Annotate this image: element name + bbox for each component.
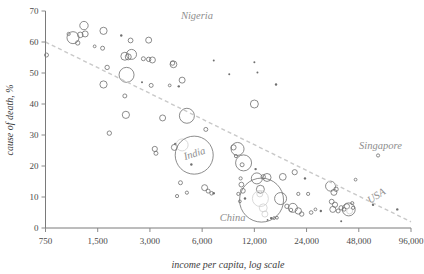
data-bubble [213, 60, 215, 62]
data-bubble [259, 204, 267, 212]
data-bubble [101, 46, 105, 50]
data-bubble [270, 217, 272, 219]
data-bubble [119, 67, 134, 82]
data-bubble [309, 211, 313, 215]
y-tick-label: 0 [34, 223, 39, 233]
data-bubble [154, 151, 158, 155]
annotation-singapore: Singapore [359, 140, 402, 151]
y-tick-label: 70 [30, 6, 40, 16]
data-bubble [123, 94, 127, 98]
data-bubble [340, 220, 342, 222]
y-tick-label: 60 [30, 37, 40, 47]
annotation-usa: USA [365, 186, 388, 206]
data-bubble [275, 83, 277, 85]
data-bubble [121, 52, 129, 60]
y-tick-label: 40 [30, 99, 40, 109]
annotation-india: India [181, 145, 206, 163]
y-tick-label: 20 [30, 161, 40, 171]
x-tick-label: 3,000 [140, 236, 161, 246]
x-tick-label: 1,500 [88, 236, 109, 246]
data-bubble [239, 182, 244, 187]
x-tick-label: 12,000 [242, 236, 267, 246]
bubble-series [45, 21, 399, 222]
data-bubble [275, 193, 287, 205]
data-bubble [237, 192, 240, 195]
data-bubble [267, 219, 269, 221]
data-bubble [120, 34, 122, 36]
plot-area [45, 21, 412, 222]
data-bubble [178, 85, 180, 87]
x-tick-label: 48,000 [346, 236, 371, 246]
data-bubble [279, 173, 286, 180]
data-bubble [262, 211, 268, 217]
trendline [46, 42, 412, 222]
x-tick-label: 750 [39, 236, 53, 246]
data-bubble [351, 206, 354, 209]
data-bubble [179, 108, 194, 123]
y-tick-label: 10 [30, 192, 40, 202]
data-bubble [276, 216, 279, 219]
x-tick-label: 24,000 [294, 236, 319, 246]
data-bubble [244, 197, 246, 199]
data-bubble [80, 21, 88, 29]
data-bubble [228, 73, 230, 75]
data-bubble [213, 192, 215, 194]
data-bubble [376, 154, 379, 157]
data-bubble [160, 115, 166, 121]
chart-canvas: 010203040506070 7501,5003,0006,00012,000… [0, 0, 424, 274]
data-bubble [329, 199, 334, 204]
y-tick-label: 50 [30, 68, 40, 78]
data-bubble [240, 163, 244, 167]
data-bubble [314, 208, 317, 211]
data-bubble [190, 163, 192, 165]
data-bubble [354, 178, 357, 181]
data-bubble [185, 191, 188, 194]
data-bubble [239, 177, 242, 180]
data-bubble [105, 65, 109, 69]
data-bubble [175, 194, 178, 197]
data-bubble [396, 208, 398, 210]
data-bubble [179, 77, 185, 83]
data-bubble [253, 61, 255, 63]
data-bubble [307, 192, 310, 195]
data-bubble [100, 27, 107, 34]
y-tick-label: 30 [30, 130, 40, 140]
y-axis-title: cause of death, % [4, 84, 15, 155]
data-bubble [257, 191, 263, 197]
data-bubble [204, 127, 208, 131]
data-bubble [304, 177, 306, 179]
data-bubble [256, 71, 258, 73]
data-bubble [128, 38, 133, 43]
data-bubble [146, 37, 152, 43]
data-bubble [141, 81, 143, 83]
data-bubble [149, 83, 153, 87]
data-bubble [178, 181, 182, 185]
data-bubble [263, 173, 271, 181]
data-bubble [107, 131, 111, 135]
data-bubble [297, 192, 300, 195]
bubble-chart: 010203040506070 7501,5003,0006,00012,000… [0, 0, 424, 274]
data-bubble [122, 111, 129, 118]
x-axis-ticks: 7501,5003,0006,00012,00024,00048,00096,0… [39, 228, 424, 246]
data-bubble [168, 84, 171, 87]
annotation-china: China [220, 212, 246, 223]
data-bubble [240, 178, 284, 222]
data-bubble [320, 210, 322, 212]
data-bubble [149, 57, 155, 63]
data-bubble [330, 206, 336, 212]
axes: 010203040506070 7501,5003,0006,00012,000… [30, 6, 424, 246]
data-bubble [250, 100, 258, 108]
x-tick-label: 6,000 [192, 236, 213, 246]
data-bubble [292, 170, 297, 175]
x-tick-label: 96,000 [399, 236, 424, 246]
y-axis-ticks: 010203040506070 [30, 6, 46, 233]
x-axis-title: income per capita, log scale [171, 259, 285, 270]
data-bubble [100, 81, 107, 88]
annotation-nigeria: Nigeria [180, 10, 213, 21]
country-annotations: NigeriaIndiaChinaSingaporeUSA [180, 10, 402, 223]
data-bubble [152, 146, 157, 151]
data-bubble [231, 142, 244, 155]
data-bubble [300, 212, 304, 216]
data-bubble [93, 45, 96, 48]
data-bubble [254, 168, 256, 170]
